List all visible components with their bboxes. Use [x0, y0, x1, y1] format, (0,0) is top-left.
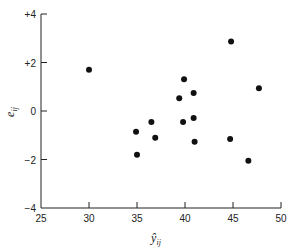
- y-axis-ticks: −4−20+2+4: [25, 9, 47, 214]
- data-point: [176, 95, 182, 101]
- data-point: [180, 119, 186, 125]
- data-point: [148, 119, 154, 125]
- data-point: [256, 85, 262, 91]
- x-axis-label: ŷij: [150, 231, 162, 247]
- y-axis-label: eij: [3, 106, 19, 117]
- data-point: [133, 129, 139, 135]
- y-tick-label: −4: [25, 203, 37, 214]
- y-tick-label: 0: [30, 106, 36, 117]
- data-point: [191, 90, 197, 96]
- axes: [41, 14, 281, 208]
- x-axis-label-sub: ij: [156, 238, 161, 247]
- y-tick-label: −2: [25, 155, 37, 166]
- x-tick-label: 45: [227, 213, 239, 224]
- data-point: [181, 76, 187, 82]
- y-tick-label: +2: [25, 58, 37, 69]
- data-point: [191, 115, 197, 121]
- y-axis-label-sub: ij: [10, 106, 19, 111]
- residual-scatter-chart: 253035404550 −4−20+2+4 ŷij eij: [0, 0, 294, 252]
- data-point: [86, 67, 92, 73]
- data-point: [227, 136, 233, 142]
- data-point: [192, 139, 198, 145]
- data-point: [245, 158, 251, 164]
- data-point: [134, 152, 140, 158]
- data-point: [152, 135, 158, 141]
- x-tick-label: 35: [131, 213, 143, 224]
- x-tick-label: 40: [179, 213, 191, 224]
- x-tick-label: 30: [83, 213, 95, 224]
- x-axis-ticks: 253035404550: [35, 202, 287, 224]
- x-tick-label: 25: [35, 213, 47, 224]
- data-points: [86, 38, 262, 163]
- x-tick-label: 50: [275, 213, 287, 224]
- y-tick-label: +4: [25, 9, 37, 20]
- data-point: [228, 38, 234, 44]
